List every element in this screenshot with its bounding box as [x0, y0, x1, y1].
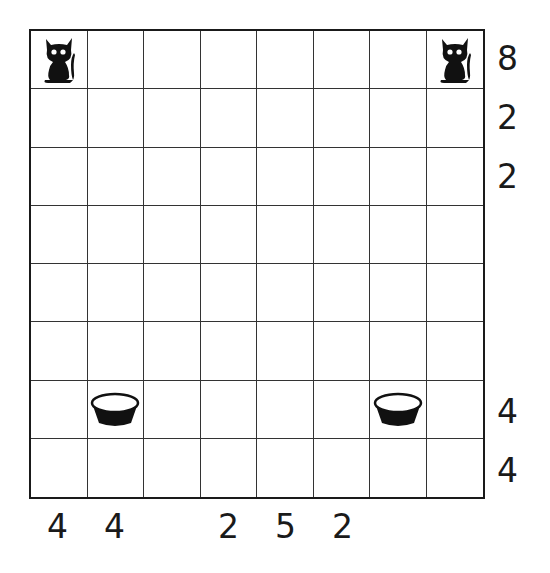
- grid-cell[interactable]: [144, 148, 201, 206]
- grid-cell[interactable]: [370, 89, 427, 147]
- grid-cell[interactable]: [314, 322, 371, 380]
- grid-cell[interactable]: [144, 264, 201, 322]
- grid-cell[interactable]: [201, 439, 258, 497]
- grid-cell[interactable]: [201, 264, 258, 322]
- row-clue: 2: [497, 101, 527, 134]
- cat-icon: [436, 35, 474, 85]
- grid-cell[interactable]: [31, 206, 88, 264]
- puzzle-grid: [29, 29, 485, 499]
- grid-cell[interactable]: [201, 381, 258, 439]
- grid-cell[interactable]: [427, 89, 484, 147]
- row-clue: 4: [497, 395, 527, 428]
- grid-cell[interactable]: [257, 89, 314, 147]
- grid-cell[interactable]: [257, 439, 314, 497]
- grid-cell[interactable]: [201, 322, 258, 380]
- grid-cell[interactable]: [370, 439, 427, 497]
- grid-cell[interactable]: [144, 322, 201, 380]
- grid-cell[interactable]: [370, 206, 427, 264]
- row-clue: 8: [497, 42, 527, 75]
- grid-cell[interactable]: [314, 381, 371, 439]
- column-clue: 2: [314, 510, 371, 543]
- row-clue: 2: [497, 160, 527, 193]
- grid-cell[interactable]: [201, 206, 258, 264]
- grid-cell[interactable]: [88, 381, 145, 439]
- grid-cell[interactable]: [427, 264, 484, 322]
- grid-cell[interactable]: [31, 322, 88, 380]
- grid-cell[interactable]: [144, 439, 201, 497]
- grid-cell[interactable]: [314, 89, 371, 147]
- grid-cell[interactable]: [314, 264, 371, 322]
- bowl-icon: [89, 389, 141, 429]
- column-clue: 2: [200, 510, 257, 543]
- grid-cell[interactable]: [314, 439, 371, 497]
- grid-cell[interactable]: [314, 31, 371, 89]
- grid-cell[interactable]: [31, 381, 88, 439]
- grid-cell[interactable]: [88, 439, 145, 497]
- grid-cell[interactable]: [257, 322, 314, 380]
- grid-cell[interactable]: [370, 31, 427, 89]
- grid-cell[interactable]: [427, 206, 484, 264]
- bowl-icon: [372, 389, 424, 429]
- grid-cell[interactable]: [370, 148, 427, 206]
- grid-cell[interactable]: [88, 206, 145, 264]
- grid-cell[interactable]: [257, 381, 314, 439]
- grid-cell[interactable]: [201, 89, 258, 147]
- grid-cell[interactable]: [31, 148, 88, 206]
- grid-cell[interactable]: [314, 148, 371, 206]
- column-clue: 4: [86, 510, 143, 543]
- grid-cell[interactable]: [31, 31, 88, 89]
- grid-cell[interactable]: [370, 264, 427, 322]
- grid-cell[interactable]: [31, 439, 88, 497]
- grid-cell[interactable]: [144, 31, 201, 89]
- grid-cell[interactable]: [88, 148, 145, 206]
- grid-cell[interactable]: [88, 264, 145, 322]
- row-clue: 4: [497, 454, 527, 487]
- grid-cell[interactable]: [144, 206, 201, 264]
- grid-cell[interactable]: [427, 322, 484, 380]
- grid-cell[interactable]: [88, 31, 145, 89]
- cat-icon: [40, 35, 78, 85]
- grid-cell[interactable]: [427, 439, 484, 497]
- grid-cell[interactable]: [257, 206, 314, 264]
- grid-cell[interactable]: [370, 381, 427, 439]
- grid-cell[interactable]: [31, 89, 88, 147]
- grid-cell[interactable]: [427, 381, 484, 439]
- grid-cell[interactable]: [201, 31, 258, 89]
- grid-cell[interactable]: [144, 89, 201, 147]
- column-clue: 4: [29, 510, 86, 543]
- column-clue: 5: [257, 510, 314, 543]
- grid-cell[interactable]: [370, 322, 427, 380]
- grid-cell[interactable]: [427, 31, 484, 89]
- grid-cell[interactable]: [88, 322, 145, 380]
- grid-cell[interactable]: [88, 89, 145, 147]
- grid-cell[interactable]: [314, 206, 371, 264]
- grid-cell[interactable]: [201, 148, 258, 206]
- grid-cell[interactable]: [257, 31, 314, 89]
- grid-cell[interactable]: [31, 264, 88, 322]
- grid-cell[interactable]: [144, 381, 201, 439]
- grid-cell[interactable]: [427, 148, 484, 206]
- grid-cell[interactable]: [257, 264, 314, 322]
- grid-cell[interactable]: [257, 148, 314, 206]
